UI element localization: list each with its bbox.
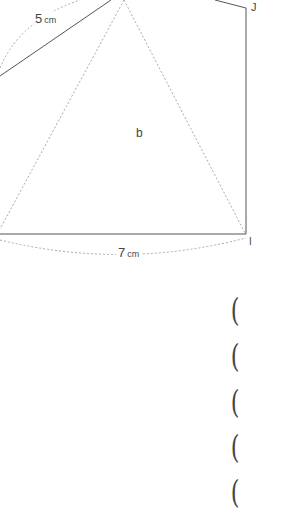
answer-blank-1: (: [231, 294, 240, 326]
diagonal-right: [124, 0, 245, 233]
answer-blank-3: (: [231, 386, 240, 418]
label-center-b: b: [136, 126, 143, 140]
answer-blank-2: (: [231, 340, 240, 372]
edge-top-right-J: [215, 0, 246, 234]
side-7-unit: cm: [127, 249, 139, 259]
label-vertex-I: I: [249, 236, 252, 247]
side-5-unit: cm: [44, 15, 56, 25]
geometry-figure: [0, 0, 292, 270]
side-5-value: 5: [35, 11, 42, 26]
label-side-7cm: 7cm: [116, 245, 141, 260]
label-vertex-J: J: [251, 1, 257, 13]
answer-blank-4: (: [231, 431, 240, 463]
diagonal-left: [0, 0, 124, 229]
answer-blank-5: (: [231, 476, 240, 508]
label-side-5cm: 5cm: [34, 11, 57, 26]
side-7-value: 7: [118, 245, 125, 260]
